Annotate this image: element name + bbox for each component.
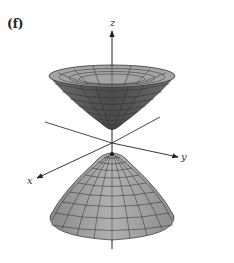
hyperboloid-figure: z y x — [0, 0, 234, 263]
z-axis-label: z — [109, 17, 116, 28]
upper-sheet — [49, 65, 175, 130]
x-axis-label: x — [27, 175, 33, 186]
lower-sheet — [50, 152, 174, 240]
y-axis-label: y — [180, 151, 187, 162]
